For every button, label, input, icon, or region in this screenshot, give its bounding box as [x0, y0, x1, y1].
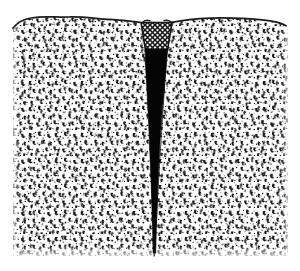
mesh-cap-fill	[141, 23, 172, 51]
mesh-cap-group	[141, 23, 172, 51]
geological-cross-section-figure: Cross-section of stippled rock mass with…	[0, 0, 300, 271]
figure-root: Cross-section of stippled rock mass with…	[0, 0, 300, 271]
